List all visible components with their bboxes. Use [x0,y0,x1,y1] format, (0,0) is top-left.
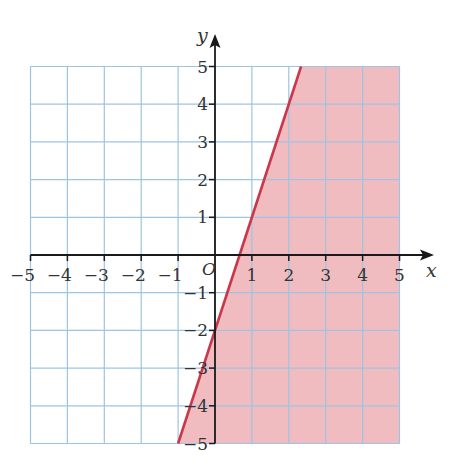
y-tick-label: −4 [183,396,208,416]
x-axis-label: x [426,259,437,281]
y-tick-label: 4 [197,94,208,114]
y-axis-label: y [196,24,208,46]
x-tick-label: −3 [84,265,109,285]
x-tick-label: 3 [320,265,331,285]
inequality-graph: −5−4−3−2−112345−5−4−3−2−112345 x y O [0,0,472,465]
x-tick-label: −4 [47,265,72,285]
x-tick-label: −1 [158,265,183,285]
y-tick-label: −1 [183,283,208,303]
y-tick-label: −5 [183,434,208,454]
y-tick-label: −2 [183,320,208,340]
x-tick-label: 2 [283,265,294,285]
x-tick-label: 4 [357,265,368,285]
y-tick-label: 5 [197,57,208,77]
y-tick-label: −3 [183,358,208,378]
x-tick-label: −2 [121,265,146,285]
x-tick-label: −5 [10,265,35,285]
x-tick-label: 5 [394,265,405,285]
origin-label: O [202,259,216,279]
y-tick-label: 1 [197,207,208,227]
y-tick-label: 3 [197,132,208,152]
x-tick-label: 1 [246,265,257,285]
y-tick-label: 2 [197,170,208,190]
